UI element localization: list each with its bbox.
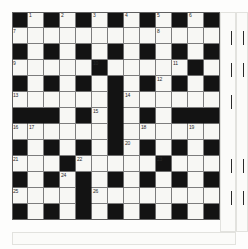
grid-cell-light[interactable]: 25 bbox=[12, 188, 28, 204]
grid-cell-light[interactable] bbox=[60, 140, 76, 156]
grid-cell-light[interactable] bbox=[124, 188, 140, 204]
grid-cell-light[interactable] bbox=[204, 60, 220, 76]
grid-cell-light[interactable] bbox=[60, 124, 76, 140]
grid-cell-light[interactable]: 11 bbox=[172, 60, 188, 76]
grid-cell-light[interactable]: 12 bbox=[156, 76, 172, 92]
grid-cell-light[interactable] bbox=[44, 60, 60, 76]
grid-cell-light[interactable]: 8 bbox=[156, 28, 172, 44]
grid-cell-light[interactable]: 18 bbox=[140, 124, 156, 140]
grid-cell-light[interactable] bbox=[204, 92, 220, 108]
grid-cell-light[interactable]: 4 bbox=[124, 12, 140, 28]
grid-cell-light[interactable] bbox=[76, 92, 92, 108]
grid-cell-light[interactable]: 22 bbox=[76, 156, 92, 172]
grid-cell-light[interactable] bbox=[92, 140, 108, 156]
grid-cell-light[interactable] bbox=[60, 28, 76, 44]
grid-cell-light[interactable] bbox=[108, 60, 124, 76]
grid-cell-light[interactable] bbox=[140, 156, 156, 172]
grid-cell-light[interactable] bbox=[172, 92, 188, 108]
grid-cell-light[interactable] bbox=[92, 76, 108, 92]
grid-cell-light[interactable] bbox=[92, 204, 108, 220]
grid-cell-light[interactable] bbox=[140, 92, 156, 108]
grid-cell-light[interactable]: 20 bbox=[124, 140, 140, 156]
grid-cell-light[interactable]: 6 bbox=[188, 12, 204, 28]
grid-cell-light[interactable] bbox=[60, 76, 76, 92]
grid-cell-light[interactable] bbox=[124, 28, 140, 44]
grid-cell-light[interactable] bbox=[60, 108, 76, 124]
grid-cell-light[interactable] bbox=[188, 204, 204, 220]
grid-cell-light[interactable] bbox=[28, 76, 44, 92]
grid-cell-light[interactable] bbox=[204, 156, 220, 172]
grid-cell-light[interactable] bbox=[92, 124, 108, 140]
grid-cell-light[interactable] bbox=[28, 92, 44, 108]
grid-cell-light[interactable] bbox=[204, 28, 220, 44]
grid-cell-light[interactable] bbox=[44, 188, 60, 204]
grid-cell-light[interactable] bbox=[28, 44, 44, 60]
grid-cell-light[interactable] bbox=[60, 188, 76, 204]
grid-cell-light[interactable] bbox=[92, 172, 108, 188]
grid-cell-light[interactable] bbox=[60, 60, 76, 76]
grid-cell-light[interactable] bbox=[44, 156, 60, 172]
grid-cell-light[interactable] bbox=[28, 60, 44, 76]
grid-cell-light[interactable]: 21 bbox=[12, 156, 28, 172]
grid-cell-light[interactable] bbox=[108, 156, 124, 172]
grid-cell-light[interactable] bbox=[156, 124, 172, 140]
grid-cell-light[interactable]: 2 bbox=[60, 12, 76, 28]
grid-cell-light[interactable] bbox=[124, 44, 140, 60]
grid-cell-light[interactable] bbox=[156, 140, 172, 156]
grid-cell-light[interactable] bbox=[76, 124, 92, 140]
grid-cell-light[interactable] bbox=[172, 28, 188, 44]
grid-cell-light[interactable] bbox=[76, 28, 92, 44]
grid-cell-light[interactable] bbox=[108, 188, 124, 204]
grid-cell-light[interactable] bbox=[124, 60, 140, 76]
grid-cell-light[interactable]: 13 bbox=[12, 92, 28, 108]
grid-cell-light[interactable] bbox=[172, 156, 188, 172]
grid-cell-light[interactable] bbox=[60, 92, 76, 108]
grid-cell-light[interactable] bbox=[28, 204, 44, 220]
grid-cell-light[interactable] bbox=[140, 28, 156, 44]
grid-cell-light[interactable] bbox=[140, 60, 156, 76]
grid-cell-light[interactable] bbox=[60, 204, 76, 220]
grid-cell-light[interactable]: 14 bbox=[124, 92, 140, 108]
grid-cell-light[interactable] bbox=[28, 140, 44, 156]
grid-cell-light[interactable]: 24 bbox=[60, 172, 76, 188]
grid-cell-light[interactable] bbox=[124, 108, 140, 124]
grid-cell-light[interactable] bbox=[156, 60, 172, 76]
grid-cell-light[interactable] bbox=[92, 44, 108, 60]
grid-cell-light[interactable] bbox=[156, 204, 172, 220]
grid-cell-light[interactable] bbox=[204, 124, 220, 140]
grid-cell-light[interactable] bbox=[188, 28, 204, 44]
grid-cell-light[interactable] bbox=[188, 44, 204, 60]
grid-cell-light[interactable] bbox=[204, 188, 220, 204]
grid-cell-light[interactable] bbox=[28, 172, 44, 188]
grid-cell-light[interactable]: 5 bbox=[156, 12, 172, 28]
grid-cell-light[interactable] bbox=[28, 28, 44, 44]
grid-cell-light[interactable] bbox=[156, 188, 172, 204]
grid-cell-light[interactable]: 9 bbox=[12, 60, 28, 76]
grid-cell-light[interactable]: 7 bbox=[12, 28, 28, 44]
grid-cell-light[interactable]: 3 bbox=[92, 12, 108, 28]
grid-cell-light[interactable] bbox=[92, 28, 108, 44]
grid-cell-light[interactable] bbox=[156, 108, 172, 124]
grid-cell-light[interactable]: 19 bbox=[188, 124, 204, 140]
grid-cell-light[interactable] bbox=[124, 204, 140, 220]
grid-cell-light[interactable] bbox=[60, 44, 76, 60]
grid-cell-light[interactable] bbox=[28, 188, 44, 204]
grid-cell-light[interactable] bbox=[92, 92, 108, 108]
grid-cell-light[interactable]: 17 bbox=[28, 124, 44, 140]
grid-cell-light[interactable]: 1 bbox=[28, 12, 44, 28]
grid-cell-light[interactable] bbox=[172, 188, 188, 204]
grid-cell-light[interactable] bbox=[28, 156, 44, 172]
grid-cell-light[interactable] bbox=[188, 172, 204, 188]
grid-cell-light[interactable] bbox=[76, 60, 92, 76]
grid-cell-light[interactable] bbox=[92, 156, 108, 172]
grid-cell-light[interactable] bbox=[156, 172, 172, 188]
grid-cell-light[interactable] bbox=[188, 188, 204, 204]
grid-cell-light[interactable] bbox=[188, 92, 204, 108]
grid-cell-light[interactable]: 16 bbox=[12, 124, 28, 140]
grid-cell-light[interactable] bbox=[188, 76, 204, 92]
grid-cell-light[interactable] bbox=[124, 124, 140, 140]
grid-cell-light[interactable] bbox=[156, 44, 172, 60]
grid-cell-light[interactable] bbox=[172, 124, 188, 140]
grid-cell-light[interactable] bbox=[44, 28, 60, 44]
grid-cell-light[interactable] bbox=[108, 28, 124, 44]
